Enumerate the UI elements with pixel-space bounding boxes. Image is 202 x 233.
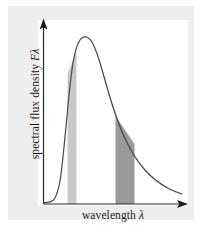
figure-root: spectral flux density Fλ wavelength λ <box>0 0 202 233</box>
y-axis-label-symbol: F <box>29 54 41 61</box>
y-axis-label: spectral flux density Fλ <box>29 34 41 174</box>
x-axis-label: wavelength λ <box>38 209 188 221</box>
x-axis-label-symbol: λ <box>139 209 144 221</box>
y-axis-label-subscript: λ <box>29 49 41 54</box>
figure-panel: spectral flux density Fλ wavelength λ <box>8 6 194 220</box>
shaded-band-dark <box>116 116 135 204</box>
y-axis-label-text: spectral flux density <box>29 61 41 159</box>
spectral-curve <box>44 37 182 203</box>
x-axis-label-text: wavelength <box>82 209 139 221</box>
